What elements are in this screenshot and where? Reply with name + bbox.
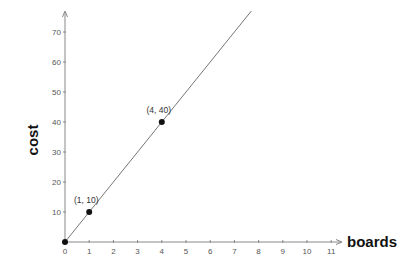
x-tick-label: 7: [232, 247, 237, 256]
data-points: (1, 10)(4, 40): [62, 105, 171, 245]
series-line: [65, 11, 251, 242]
data-point: [159, 119, 165, 125]
data-point-label: (4, 40): [147, 105, 172, 115]
x-tick-label: 8: [256, 247, 261, 256]
x-tick-label: 9: [281, 247, 286, 256]
x-tick-label: 10: [303, 247, 312, 256]
y-tick-label: 40: [52, 118, 61, 127]
x-axis: 01234567891011: [63, 240, 342, 257]
x-tick-label: 11: [327, 247, 336, 256]
y-tick-label: 70: [52, 28, 61, 37]
y-tick-label: 50: [52, 88, 61, 97]
y-axis-title: cost: [24, 125, 41, 156]
data-point: [62, 239, 68, 245]
data-point: [86, 209, 92, 215]
y-tick-label: 20: [52, 178, 61, 187]
y-tick-label: 30: [52, 148, 61, 157]
x-tick-label: 3: [135, 247, 140, 256]
x-tick-label: 2: [111, 247, 116, 256]
y-tick-label: 60: [52, 58, 61, 67]
y-tick-label: 10: [52, 208, 61, 217]
line-chart: 01234567891011 10203040506070 (1, 10)(4,…: [0, 0, 405, 269]
data-point-label: (1, 10): [74, 195, 99, 205]
x-tick-label: 6: [208, 247, 213, 256]
y-axis: 10203040506070: [52, 11, 67, 242]
x-tick-label: 0: [63, 247, 68, 256]
x-axis-title: boards: [347, 233, 397, 250]
x-tick-label: 4: [160, 247, 165, 256]
series-line-path: [65, 11, 251, 242]
x-tick-label: 1: [87, 247, 92, 256]
x-tick-label: 5: [184, 247, 189, 256]
